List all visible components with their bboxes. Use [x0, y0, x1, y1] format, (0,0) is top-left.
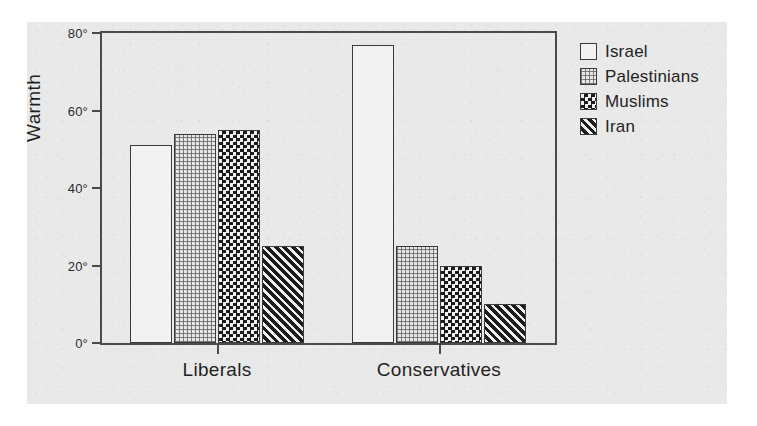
y-axis-tick-mark: [92, 110, 102, 112]
y-axis-tick-mark: [92, 32, 102, 34]
bar-conservatives-iran: [484, 304, 526, 343]
y-axis-tick-label: 40°: [68, 181, 88, 196]
x-axis-label-liberals: Liberals: [183, 359, 252, 381]
bar-liberals-muslims: [218, 130, 260, 343]
y-axis-tick-label: 60°: [68, 103, 88, 118]
bar-liberals-iran: [262, 246, 304, 343]
chart-legend: IsraelPalestiniansMuslimsIran: [580, 39, 699, 139]
figure-panel: Warmth 0°20°40°60°80° LiberalsConservati…: [27, 22, 727, 404]
bar-liberals-palestinians: [174, 134, 216, 343]
legend-swatch-iran: [580, 118, 597, 135]
legend-item-palestinians[interactable]: Palestinians: [580, 64, 699, 89]
y-axis-tick-mark: [92, 187, 102, 189]
y-axis-tick-label: 0°: [75, 336, 88, 351]
y-axis-tick-mark: [92, 265, 102, 267]
legend-item-israel[interactable]: Israel: [580, 39, 699, 64]
bar-conservatives-palestinians: [396, 246, 438, 343]
x-axis-tick-mark: [439, 343, 441, 354]
bar-liberals-israel: [130, 145, 172, 343]
x-axis-label-conservatives: Conservatives: [377, 359, 501, 381]
legend-label-palestinians: Palestinians: [605, 67, 699, 87]
y-axis-tick-mark: [92, 342, 102, 344]
legend-item-muslims[interactable]: Muslims: [580, 89, 699, 114]
legend-label-israel: Israel: [605, 42, 648, 62]
legend-label-iran: Iran: [605, 117, 635, 137]
legend-item-iran[interactable]: Iran: [580, 114, 699, 139]
y-axis-tick-label: 20°: [68, 258, 88, 273]
legend-label-muslims: Muslims: [605, 92, 669, 112]
plot-frame: 0°20°40°60°80° LiberalsConservatives: [100, 31, 557, 345]
y-axis-title: Warmth: [23, 74, 45, 142]
y-axis-tick-label: 80°: [68, 26, 88, 41]
x-axis-tick-mark: [217, 343, 219, 354]
bar-conservatives-muslims: [440, 266, 482, 344]
legend-swatch-israel: [580, 43, 597, 60]
legend-swatch-muslims: [580, 93, 597, 110]
legend-swatch-palestinians: [580, 68, 597, 85]
bar-conservatives-israel: [352, 45, 394, 343]
